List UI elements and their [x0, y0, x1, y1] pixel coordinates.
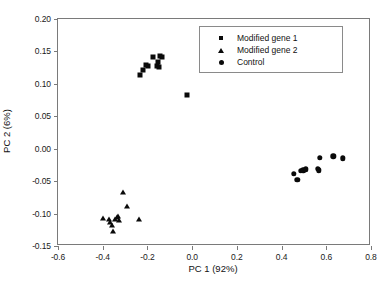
x-tick-label: 0.0	[186, 252, 198, 262]
x-tick-mark	[371, 246, 372, 250]
data-point-triangle	[109, 222, 115, 227]
scatter-plot-figure: PC 2 (6%) PC 1 (92%) 0.200.150.100.050.0…	[0, 0, 382, 290]
data-point-square	[159, 54, 164, 59]
data-point-square	[157, 64, 162, 69]
x-tick-mark	[58, 246, 59, 250]
legend-label: Control	[237, 57, 264, 67]
y-tick-label: 0.00	[35, 144, 51, 154]
data-point-circle	[303, 167, 308, 172]
x-tick-mark	[237, 246, 238, 250]
square-glyph	[219, 36, 224, 41]
x-tick-mark	[326, 246, 327, 250]
data-point-triangle	[124, 204, 130, 209]
y-tick-mark	[54, 116, 58, 117]
y-tick-mark	[54, 51, 58, 52]
square-marker-icon	[214, 36, 228, 41]
data-point-triangle	[110, 229, 116, 234]
x-tick-label: 0.4	[276, 252, 288, 262]
legend-label: Modified gene 1	[237, 33, 298, 43]
circle-marker-icon	[214, 60, 228, 65]
data-point-circle	[295, 177, 300, 182]
data-point-square	[150, 55, 155, 60]
legend-label: Modified gene 2	[237, 45, 298, 55]
data-point-circle	[340, 156, 345, 161]
legend-entry: Modified gene 1	[200, 32, 342, 44]
data-point-circle	[331, 154, 336, 159]
y-tick-label: 0.20	[35, 14, 51, 24]
data-point-triangle	[120, 189, 126, 194]
y-tick-mark	[54, 149, 58, 150]
y-tick-label: -0.15	[32, 241, 51, 251]
circle-glyph	[219, 60, 224, 65]
x-tick-mark	[147, 246, 148, 250]
x-tick-label: 0.8	[365, 252, 377, 262]
y-tick-label: 0.15	[35, 46, 51, 56]
y-tick-mark	[54, 181, 58, 182]
y-tick-label: 0.10	[35, 79, 51, 89]
y-tick-mark	[54, 214, 58, 215]
data-point-square	[140, 67, 145, 72]
data-point-square	[145, 64, 150, 69]
data-point-triangle	[136, 216, 142, 221]
data-point-circle	[291, 171, 296, 176]
data-point-circle	[316, 167, 321, 172]
data-point-square	[137, 73, 142, 78]
x-axis-title: PC 1 (92%)	[188, 263, 237, 274]
y-tick-mark	[54, 19, 58, 20]
y-tick-label: 0.05	[35, 111, 51, 121]
data-point-triangle	[116, 218, 122, 223]
y-tick-label: -0.05	[32, 176, 51, 186]
triangle-marker-icon	[214, 48, 228, 53]
y-tick-label: -0.10	[32, 209, 51, 219]
chart-legend: Modified gene 1Modified gene 2Control	[199, 26, 343, 73]
data-point-circle	[317, 155, 322, 160]
triangle-glyph	[218, 48, 224, 53]
x-tick-mark	[192, 246, 193, 250]
data-point-square	[185, 92, 190, 97]
legend-entry: Modified gene 2	[200, 44, 342, 56]
x-tick-label: -0.4	[96, 252, 110, 262]
x-tick-mark	[103, 246, 104, 250]
x-tick-label: 0.6	[321, 252, 333, 262]
y-tick-mark	[54, 84, 58, 85]
legend-entry: Control	[200, 56, 342, 68]
x-tick-label: -0.2	[140, 252, 154, 262]
x-tick-mark	[282, 246, 283, 250]
x-tick-label: -0.6	[51, 252, 65, 262]
y-axis-title: PC 2 (6%)	[1, 109, 12, 153]
x-tick-label: 0.2	[231, 252, 243, 262]
